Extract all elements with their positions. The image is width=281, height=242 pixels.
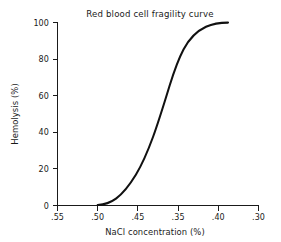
y-axis-tick-labels: 0 20 40 60 80 100 <box>33 19 49 211</box>
y-axis-title: Hemolysis (%) <box>10 83 20 145</box>
y-tick-label-80: 80 <box>39 55 49 64</box>
y-axis-ticks <box>53 23 58 206</box>
fragility-curve-plot: Red blood cell fragility curve 0 20 40 6… <box>0 0 281 242</box>
hemolysis-curve <box>98 23 228 205</box>
x-tick-label-2: .45 <box>131 213 144 222</box>
y-tick-label-40: 40 <box>39 128 49 137</box>
x-axis-title: NaCl concentration (%) <box>105 227 205 237</box>
y-tick-label-20: 20 <box>39 165 49 174</box>
y-tick-label-0: 0 <box>44 202 49 211</box>
x-axis-tick-labels: .55 .50 .45 .35 .40 .30 <box>51 213 265 222</box>
x-tick-label-0: .55 <box>51 213 64 222</box>
x-tick-label-4: .40 <box>212 213 225 222</box>
chart-figure: Red blood cell fragility curve 0 20 40 6… <box>0 0 281 242</box>
chart-title: Red blood cell fragility curve <box>86 9 213 19</box>
x-axis-ticks <box>58 206 259 211</box>
x-tick-label-1: .50 <box>91 213 104 222</box>
y-tick-label-60: 60 <box>39 92 49 101</box>
y-tick-label-100: 100 <box>33 19 49 28</box>
x-tick-label-3: .35 <box>172 213 185 222</box>
x-tick-label-5: .30 <box>252 213 265 222</box>
